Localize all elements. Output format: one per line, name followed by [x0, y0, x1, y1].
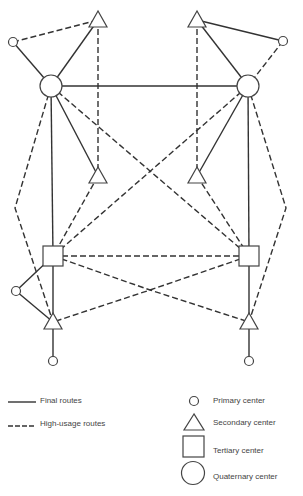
legend-quaternary-center-label: Quaternary center — [213, 472, 277, 481]
quaternary-center-node-q-l — [40, 75, 62, 97]
legend-final-routes-label: Final routes — [40, 396, 82, 405]
primary-center-node-p-tl — [9, 38, 18, 47]
legend-primary-center-label: Primary center — [213, 396, 265, 405]
edge-high-usage-route-s-ml-t-l — [53, 176, 98, 256]
legend-quaternary-center-icon — [182, 462, 205, 485]
quaternary-center-node-q-r — [237, 75, 259, 97]
secondary-center-node-s-mr — [188, 167, 206, 183]
primary-center-node-p-br — [245, 357, 254, 366]
legend-primary-center-icon — [190, 397, 199, 406]
secondary-center-node-s-tl — [89, 11, 107, 27]
secondary-center-node-s-tr — [188, 11, 206, 27]
edges-layer — [13, 20, 286, 361]
legend-secondary-center-label: Secondary center — [213, 418, 276, 427]
legend-tertiary-center-label: Tertiary center — [213, 446, 264, 455]
secondary-center-node-s-bl — [44, 313, 62, 329]
edge-final-route-q-l-s-ml — [51, 86, 98, 176]
primary-center-node-p-tr — [279, 37, 288, 46]
primary-center-node-p-bl — [49, 357, 58, 366]
legend-tertiary-center-icon — [183, 436, 204, 457]
edge-high-usage-route-s-mr-t-r — [197, 176, 249, 256]
legend-secondary-center-icon — [184, 414, 204, 430]
edge-final-route-s-tr-p-tr — [197, 20, 283, 41]
edge-final-route-q-r-t-r — [248, 86, 249, 256]
tertiary-center-node-t-r — [239, 246, 259, 266]
legend-high-usage-routes-label: High-usage routes — [40, 419, 105, 428]
edge-high-usage-route-q-r-s-br — [248, 86, 286, 322]
primary-center-node-p-ml — [12, 287, 21, 296]
secondary-center-node-s-br — [240, 313, 258, 329]
edge-final-route-q-r-s-mr — [197, 86, 248, 176]
tertiary-center-node-t-l — [43, 246, 63, 266]
secondary-center-node-s-ml — [89, 167, 107, 183]
edge-final-route-q-l-t-l — [51, 86, 53, 256]
